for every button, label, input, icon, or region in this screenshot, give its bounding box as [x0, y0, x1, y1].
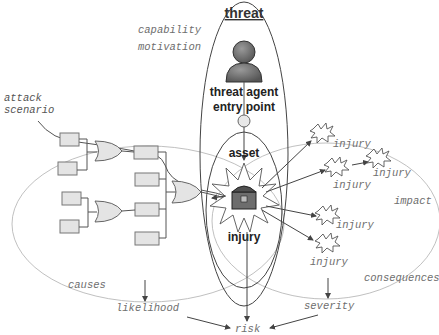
injury-label-4: injury: [336, 219, 375, 231]
injury-star-1: [310, 123, 335, 143]
injury-label-5: injury: [310, 256, 349, 268]
severity-label: severity: [304, 300, 355, 312]
attack-scenario-label-1: attack: [4, 92, 43, 104]
impact-label: impact: [394, 195, 432, 207]
entry-point-node: [238, 115, 250, 127]
risk-model-diagram: threat threat agent entry point asset ca…: [0, 0, 439, 335]
injury-label-2: injury: [333, 179, 372, 191]
motivation-label: motivation: [138, 41, 201, 53]
asset-label: asset: [229, 146, 260, 160]
threat-title: threat: [225, 5, 264, 21]
injury-label-1: injury: [333, 138, 372, 150]
injury-center-label: injury: [228, 230, 261, 244]
attack-scenario-label-2: scenario: [4, 104, 54, 116]
injury-label-3: injury: [373, 167, 412, 179]
injury-star-5: [315, 233, 340, 253]
risk-label: risk: [235, 323, 261, 335]
treasure-chest-icon: [232, 186, 256, 209]
consequences-label: consequences: [364, 272, 439, 284]
injury-star-2: [324, 157, 349, 177]
injury-star-3: [366, 148, 391, 168]
person-icon: [226, 41, 262, 82]
causes-label: causes: [68, 279, 106, 291]
likelihood-label: likelihood: [116, 302, 180, 314]
capability-label: capability: [138, 24, 202, 36]
